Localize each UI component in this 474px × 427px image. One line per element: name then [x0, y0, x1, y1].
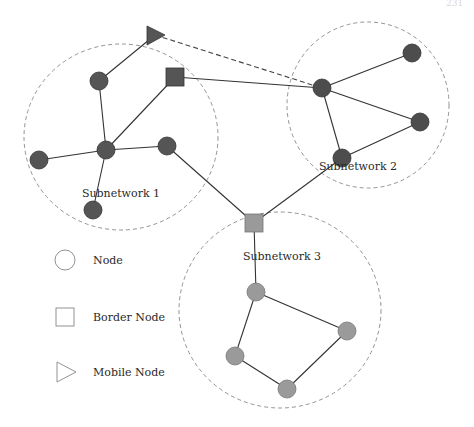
node-n3b [338, 322, 356, 340]
subnetwork-label-s1: Subnetwork 1 [82, 187, 160, 200]
border-node-b3 [245, 214, 263, 232]
edge-n3a-n3b [256, 292, 347, 331]
edge-b1-n2a [175, 77, 322, 88]
edge-n3a-n3c [235, 292, 256, 356]
legend-label-circle: Node [93, 254, 123, 267]
edge-n2a-n2d [322, 88, 342, 158]
edge-n2a-n2b [322, 53, 412, 88]
nodes [30, 26, 429, 398]
edge-n2c-n2d [342, 122, 420, 158]
node-n1c [30, 151, 48, 169]
edge-n1b-n1c [39, 150, 106, 160]
subnetwork-labels: Subnetwork 1Subnetwork 2Subnetwork 3 [82, 160, 397, 263]
node-n2b [403, 44, 421, 62]
subnetwork-boundary-s1 [24, 44, 218, 230]
node-n1b [97, 141, 115, 159]
node-n3c [226, 347, 244, 365]
node-n1d [84, 201, 102, 219]
node-n3d [278, 380, 296, 398]
network-diagram: 231 Subnetwork 1Subnetwork 2Subnetwork 3… [0, 0, 474, 427]
node-n2a [313, 79, 331, 97]
subnetwork-label-s2: Subnetwork 2 [319, 160, 397, 173]
edge-n1a-n1b [99, 81, 106, 150]
node-n2c [411, 113, 429, 131]
legend-node-icon [55, 250, 75, 270]
legend-mobile-node-icon [57, 362, 76, 382]
node-n1e [158, 137, 176, 155]
page-number: 231 [446, 0, 463, 8]
mobile-node-m1 [147, 26, 165, 45]
legend: NodeBorder NodeMobile Node [55, 250, 165, 382]
edge-n2a-n2c [322, 88, 420, 122]
subnetwork-boundary-s3 [179, 212, 381, 408]
legend-label-triangle: Mobile Node [93, 366, 165, 379]
border-node-b1 [166, 68, 184, 86]
subnetwork-label-s3: Subnetwork 3 [243, 250, 321, 263]
edge-n3d-n3b [287, 331, 347, 389]
node-n1a [90, 72, 108, 90]
node-n3a [247, 283, 265, 301]
edge-n1e-b3 [167, 146, 254, 223]
legend-border-node-icon [56, 308, 74, 326]
legend-label-square: Border Node [93, 311, 165, 324]
